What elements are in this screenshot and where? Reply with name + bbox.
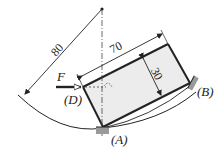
point-a-label: (A)	[111, 132, 128, 147]
force-label: F	[56, 69, 66, 84]
length-dimension-label: 70	[107, 39, 124, 57]
support-a	[96, 127, 109, 134]
point-d-label: (D)	[64, 92, 82, 107]
radius-dimension-label: 80	[48, 41, 66, 59]
diagram-canvas: 80 70 30 F (A) (B) (D)	[0, 0, 224, 152]
point-b-label: (B)	[197, 84, 214, 99]
length-extension-line-right	[161, 30, 168, 44]
